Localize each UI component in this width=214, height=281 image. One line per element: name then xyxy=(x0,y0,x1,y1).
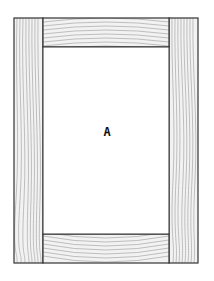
center-panel xyxy=(43,47,169,234)
right-stile xyxy=(169,18,198,263)
panel-label: A xyxy=(99,125,115,139)
door-frame-diagram xyxy=(0,0,214,281)
left-stile xyxy=(14,18,43,263)
bottom-rail xyxy=(43,232,169,263)
top-rail xyxy=(43,18,169,50)
